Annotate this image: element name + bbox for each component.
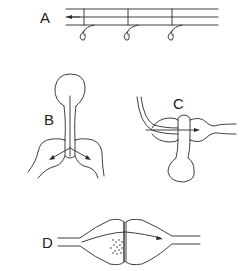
terminal-knob: [124, 25, 138, 40]
panel-a-label: A: [40, 9, 50, 26]
panel-d: D: [42, 219, 200, 264]
vesicle-cluster: [110, 239, 123, 255]
arrow-down-right-icon: [70, 148, 91, 160]
panel-c-label: C: [173, 95, 184, 112]
arrow-left-icon: [66, 15, 80, 19]
panel-d-label: D: [42, 234, 53, 251]
panel-c: C: [137, 95, 236, 182]
arrow-right-icon: [146, 128, 200, 132]
panel-b: B: [28, 74, 104, 178]
arrow-down-left-icon: [49, 148, 70, 160]
panel-b-label: B: [44, 111, 54, 128]
panel-a: A: [40, 9, 218, 40]
neuron-junction-diagram: A B: [0, 0, 244, 271]
terminal-knob: [80, 25, 94, 40]
arrow-right-icon: [82, 232, 163, 242]
terminal-knob: [168, 25, 182, 40]
